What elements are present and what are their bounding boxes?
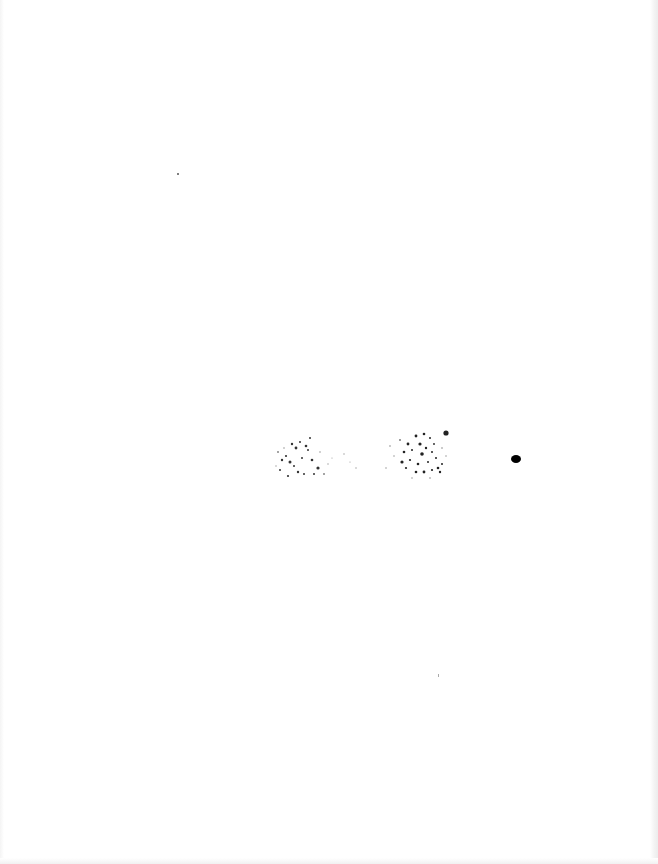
stray-speck xyxy=(177,173,179,175)
ink-blot xyxy=(511,455,521,463)
illegible-marks-right xyxy=(376,428,460,482)
faint-tick-mark xyxy=(438,674,439,677)
illegible-marks-left xyxy=(272,430,362,490)
scanned-page xyxy=(0,0,658,864)
page-bottom-edge xyxy=(0,858,658,864)
page-right-edge-shadow xyxy=(650,0,658,864)
page-left-edge xyxy=(0,0,4,864)
